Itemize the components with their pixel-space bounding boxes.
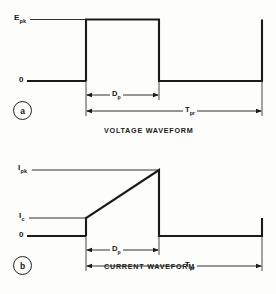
zero-label-voltage: 0 [19, 76, 24, 84]
current-pulse-trace [86, 170, 262, 236]
subfigure-marker-b: b [13, 256, 32, 275]
ic-subscript: c [21, 216, 24, 222]
panel-voltage-waveform: Epk 0 Dp Tpr VOLTAGE WAVEFORM a [0, 0, 276, 146]
tpr-arrowhead-left [86, 109, 92, 114]
dp-dimension-label-current: Dp [110, 245, 123, 255]
dp-arrowhead-left [86, 93, 92, 98]
epk-subscript: pk [20, 18, 27, 24]
current-waveform-plot [0, 146, 276, 294]
dp-subscript: p [117, 94, 120, 100]
voltage-pulse-trace [86, 20, 262, 82]
panel-current-waveform: Ipk Ic 0 Dp Tpr CURRENT WAVEFORM b [0, 146, 276, 294]
dp-dimension-label: Dp [110, 90, 123, 100]
zero-label-current: 0 [19, 231, 24, 239]
tpr-subscript: pr [190, 110, 195, 116]
voltage-waveform-plot [0, 0, 276, 146]
epk-label: Epk [14, 14, 26, 24]
subfigure-marker-a: a [13, 101, 32, 120]
dp-arrowhead-left-current [86, 248, 92, 253]
ipk-subscript: pk [20, 168, 27, 174]
voltage-waveform-caption: VOLTAGE WAVEFORM [104, 127, 193, 134]
current-waveform-caption: CURRENT WAVEFORM [104, 263, 195, 270]
dp-arrowhead-right [153, 93, 159, 98]
tpr-arrowhead-right [256, 109, 262, 114]
dp-subscript-current: p [117, 249, 120, 255]
tpr-dimension-label: Tpr [183, 106, 197, 116]
waveform-figure: Epk 0 Dp Tpr VOLTAGE WAVEFORM a [0, 0, 276, 294]
tpr-arrowhead-left-current [86, 264, 92, 269]
dp-arrowhead-right-current [153, 248, 159, 253]
ipk-label: Ipk [18, 164, 27, 174]
ic-label: Ic [19, 212, 25, 222]
tpr-arrowhead-right-current [256, 264, 262, 269]
